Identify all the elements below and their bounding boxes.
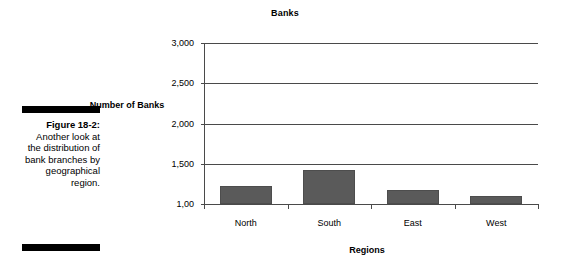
y-axis-tick-mark (201, 124, 208, 125)
x-axis-tick-mark (371, 204, 372, 209)
y-axis-tick-mark (201, 164, 208, 165)
bar-north (220, 186, 272, 204)
x-axis-tick-mark (455, 204, 456, 209)
x-axis-label-north: North (206, 219, 286, 228)
y-axis-tick-label: 3,000 (150, 39, 194, 48)
chart-title: Banks (0, 8, 570, 18)
x-axis-label-east: East (373, 219, 453, 228)
x-axis-tick-mark (204, 204, 205, 209)
plot-area (204, 43, 538, 204)
y-axis-tick-label: 2,000 (150, 120, 194, 129)
bar-east (387, 190, 439, 204)
x-axis-tick-mark (538, 204, 539, 209)
x-axis-tick-mark (288, 204, 289, 209)
y-axis-tick-mark (201, 43, 208, 44)
y-axis-tick-label: 2,500 (150, 79, 194, 88)
gridline (204, 164, 538, 165)
bar-south (303, 170, 355, 204)
y-axis-title: Number of Banks (88, 99, 166, 111)
x-axis-title: Regions (196, 245, 538, 255)
gridline (204, 124, 538, 125)
gridline (204, 43, 538, 44)
y-axis-tick-label: 1,00 (150, 200, 194, 209)
y-axis-tick-mark (201, 83, 208, 84)
bar-chart: Banks Number of Banks Regions 1,001,5002… (0, 0, 570, 277)
bar-west (470, 196, 522, 204)
x-axis-label-south: South (289, 219, 369, 228)
x-axis-label-west: West (456, 219, 536, 228)
gridline (204, 83, 538, 84)
y-axis-tick-label: 1,500 (150, 160, 194, 169)
